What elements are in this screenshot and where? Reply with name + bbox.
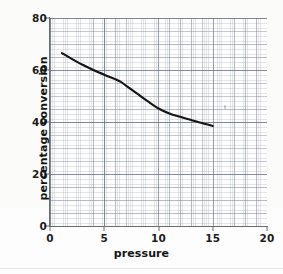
x-axis-title: pressure [0,247,283,260]
x-tick-label-5: 5 [100,232,108,244]
data-curve-layer [50,18,267,226]
x-tick-label-10: 10 [151,232,166,244]
chart-figure: 80 60 40 20 0 0 5 10 15 20 percentage co… [0,0,283,274]
x-tick-label-15: 15 [205,232,220,244]
x-tick-mark-10 [158,226,159,231]
y-axis-title: percentage conversion [37,34,50,224]
x-tick-mark-20 [267,226,268,231]
x-tick-mark-0 [50,226,51,231]
y-tick-label-80: 80 [32,12,47,24]
page-edge-line [0,268,283,269]
x-tick-label-0: 0 [46,232,54,244]
series-percentage-conversion [62,53,213,126]
scan-artifact-speck [224,105,226,109]
x-tick-mark-15 [212,226,213,231]
x-tick-label-20: 20 [259,232,274,244]
x-tick-mark-5 [104,226,105,231]
